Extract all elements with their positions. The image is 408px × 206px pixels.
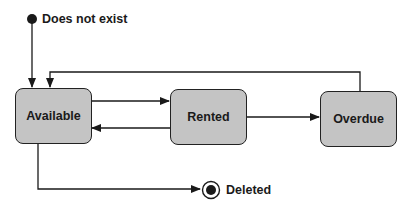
final-state-label: Deleted <box>226 183 271 197</box>
final-state-dot <box>206 185 216 195</box>
state-available: Available <box>15 88 92 144</box>
state-overdue-label: Overdue <box>333 112 384 126</box>
state-overdue: Overdue <box>320 91 397 147</box>
state-rented-label: Rented <box>187 110 229 124</box>
state-rented: Rented <box>170 89 247 145</box>
state-available-label: Available <box>26 109 80 123</box>
initial-state-label: Does not exist <box>42 12 127 26</box>
